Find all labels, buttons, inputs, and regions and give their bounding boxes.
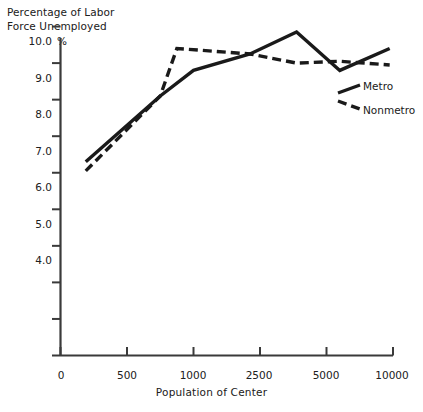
chart-container: Percentage of Labor Force Unemployed 10.… [0, 0, 423, 412]
plot-area [0, 0, 423, 412]
y-axis-ticks [52, 0, 61, 319]
legend-swatch-nonmetro [338, 101, 360, 109]
legend-layer [338, 85, 360, 109]
x-axis-ticks [61, 347, 394, 356]
legend-swatch-metro [338, 85, 360, 93]
